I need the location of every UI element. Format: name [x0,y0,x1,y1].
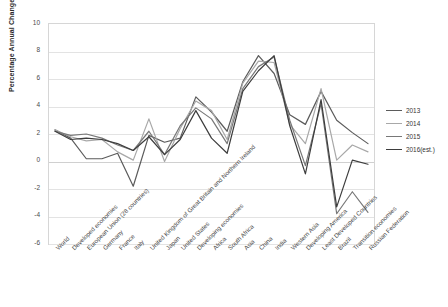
legend-item-2016est[interactable]: 2016(est.) [386,143,435,156]
y-tick-8: 8 [18,47,40,54]
legend-swatch-icon [386,136,402,137]
plot-area [48,23,375,245]
series-lines [49,24,374,244]
legend-label: 2016(est.) [406,146,435,153]
y-tick-neg6: -6 [18,240,40,247]
legend-swatch-icon [386,149,402,150]
y-tick-neg2: -2 [18,185,40,192]
chart-figure: Percentage Annual Change 1086420-2-4-6 W… [0,0,448,307]
legend-item-2015[interactable]: 2015 [386,130,435,143]
chart-legend: 2013201420152016(est.) [386,104,435,156]
y-tick-4: 4 [18,102,40,109]
legend-label: 2015 [406,133,420,140]
legend-item-2013[interactable]: 2013 [386,104,435,117]
legend-item-2014[interactable]: 2014 [386,117,435,130]
legend-label: 2013 [406,107,420,114]
y-axis-title: Percentage Annual Change [8,0,15,92]
y-tick-neg4: -4 [18,212,40,219]
y-tick-10: 10 [18,20,40,27]
legend-label: 2014 [406,120,420,127]
legend-swatch-icon [386,123,402,124]
legend-swatch-icon [386,110,402,111]
y-tick-0: 0 [18,157,40,164]
y-tick-6: 6 [18,75,40,82]
series-line-2013 [55,56,368,187]
series-line-2014 [55,61,368,161]
y-tick-2: 2 [18,130,40,137]
